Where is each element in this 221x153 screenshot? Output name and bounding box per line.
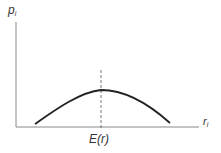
distribution-diagram xyxy=(0,0,221,153)
probability-curve xyxy=(35,90,170,124)
expected-value-label: E(r) xyxy=(89,132,109,146)
y-axis-label: pi xyxy=(8,3,16,17)
x-axis-label: ri xyxy=(203,115,208,128)
